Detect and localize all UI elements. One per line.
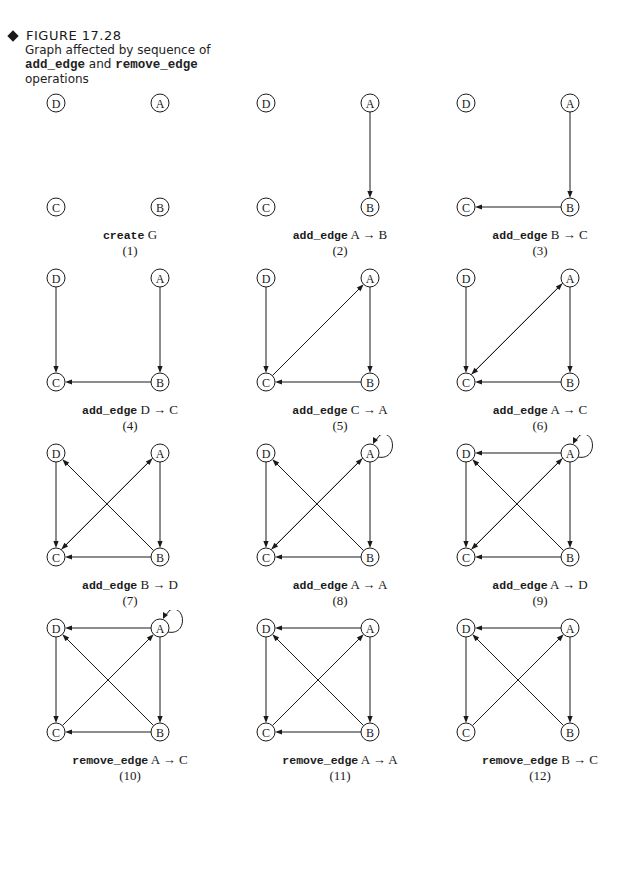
svg-text:B: B	[156, 201, 164, 215]
graph-node-c: C	[257, 548, 275, 566]
arrowhead-icon	[65, 625, 72, 630]
graph-node-c: C	[457, 548, 475, 566]
graph-node-a: A	[561, 619, 579, 637]
svg-text:B: B	[366, 726, 374, 740]
operation-label: add_edge C → A(5)	[240, 402, 440, 433]
svg-text:A: A	[366, 622, 375, 636]
graph-panel: ABCDadd_edge C → A(5)	[240, 260, 440, 435]
svg-text:C: C	[462, 201, 470, 215]
svg-text:C: C	[52, 376, 60, 390]
svg-text:D: D	[52, 272, 61, 286]
operation-label: add_edge B → C(3)	[440, 227, 636, 258]
step-number: (11)	[240, 768, 440, 783]
step-number: (3)	[440, 243, 636, 258]
operation-label: remove_edge A → C(10)	[30, 752, 230, 783]
svg-text:A: A	[156, 272, 165, 286]
arrowhead-icon	[567, 191, 572, 198]
arrowhead-icon	[275, 379, 282, 384]
arrowhead-icon	[475, 554, 482, 559]
step-number: (10)	[30, 768, 230, 783]
graph-panel: ABCDremove_edge A → C(10)	[30, 610, 230, 785]
operation-name: add_edge	[492, 229, 547, 242]
caption-code-add-edge: add_edge	[25, 58, 85, 72]
svg-text:C: C	[52, 726, 60, 740]
operation-name: add_edge	[292, 404, 347, 417]
graph-diagram: ABCD	[30, 610, 230, 750]
graph-panel: ABCDadd_edge A → B(2)	[240, 85, 440, 260]
svg-text:D: D	[52, 447, 61, 461]
operation-args: G	[148, 227, 157, 242]
operation-args: B → C	[561, 752, 598, 767]
svg-text:B: B	[156, 726, 164, 740]
operation-label: add_edge A → A(8)	[240, 577, 440, 608]
svg-text:B: B	[566, 726, 574, 740]
graph-node-d: D	[457, 619, 475, 637]
operation-name: add_edge	[293, 229, 348, 242]
caption-suffix: operations	[25, 72, 89, 86]
graph-node-d: D	[457, 94, 475, 112]
svg-text:B: B	[566, 551, 574, 565]
operation-label: add_edge A → B(2)	[240, 227, 440, 258]
svg-text:B: B	[366, 376, 374, 390]
operation-args: C → A	[351, 402, 388, 417]
svg-text:C: C	[462, 376, 470, 390]
caption-prefix: Graph affected by sequence of	[25, 43, 210, 57]
operation-label: add_edge A → D(9)	[440, 577, 636, 608]
operation-args: A → D	[550, 577, 588, 592]
step-number: (4)	[30, 418, 230, 433]
figure-header: FIGURE 17.28 Graph affected by sequence …	[8, 28, 228, 86]
graph-node-d: D	[47, 269, 65, 287]
arrowhead-icon	[263, 366, 268, 373]
svg-text:B: B	[156, 376, 164, 390]
graph-node-b: B	[361, 723, 379, 741]
graph-node-b: B	[361, 373, 379, 391]
diamond-bullet-icon	[7, 30, 18, 41]
arrowhead-icon	[157, 366, 162, 373]
step-number: (9)	[440, 593, 636, 608]
operation-label: add_edge D → C(4)	[30, 402, 230, 433]
arrowhead-icon	[367, 716, 372, 723]
arrowhead-icon	[275, 554, 282, 559]
svg-text:B: B	[366, 551, 374, 565]
operation-args: A → C	[151, 752, 188, 767]
svg-text:C: C	[262, 551, 270, 565]
graph-node-b: B	[151, 373, 169, 391]
graph-node-c: C	[257, 198, 275, 216]
graph-node-b: B	[151, 723, 169, 741]
graph-node-a: A	[561, 444, 579, 462]
arrowhead-icon	[263, 716, 268, 723]
operation-args: D → C	[140, 402, 178, 417]
operation-label: add_edge A → C(6)	[440, 402, 636, 433]
operation-name: remove_edge	[72, 754, 148, 767]
svg-text:A: A	[566, 272, 575, 286]
arrowhead-icon	[157, 541, 162, 548]
graph-node-c: C	[47, 373, 65, 391]
svg-text:A: A	[566, 622, 575, 636]
step-number: (8)	[240, 593, 440, 608]
graph-node-a: A	[361, 269, 379, 287]
operation-args: A → A	[361, 752, 398, 767]
figure-number-text: FIGURE 17.28	[26, 28, 122, 43]
arrowhead-icon	[65, 554, 72, 559]
caption-and: and	[89, 57, 112, 71]
svg-text:D: D	[462, 622, 471, 636]
svg-text:A: A	[156, 447, 165, 461]
operation-args: B → D	[140, 577, 178, 592]
graph-panel: ABCDadd_edge B → C(3)	[440, 85, 636, 260]
graph-diagram: ABCD	[30, 85, 230, 225]
graph-panel: ABCDremove_edge A → A(11)	[240, 610, 440, 785]
caption-code-remove-edge: remove_edge	[115, 58, 198, 72]
step-number: (7)	[30, 593, 230, 608]
graph-node-c: C	[257, 373, 275, 391]
step-number: (5)	[240, 418, 440, 433]
svg-text:A: A	[366, 272, 375, 286]
step-number: (12)	[440, 768, 636, 783]
graph-node-d: D	[457, 269, 475, 287]
arrowhead-icon	[263, 541, 268, 548]
svg-text:C: C	[262, 201, 270, 215]
graph-diagram: ABCD	[440, 85, 636, 225]
graph-panel: ABCDadd_edge B → D(7)	[30, 435, 230, 610]
svg-text:D: D	[462, 272, 471, 286]
arrowhead-icon	[475, 625, 482, 630]
arrowhead-icon	[475, 379, 482, 384]
